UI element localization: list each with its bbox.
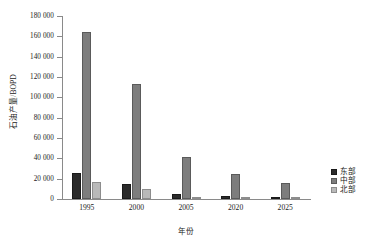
bar-中部-1995[interactable] bbox=[82, 32, 91, 199]
bar-东部-2005[interactable] bbox=[172, 194, 181, 199]
y-axis-tick-label: 0 bbox=[0, 195, 54, 203]
bar-东部-2000[interactable] bbox=[122, 184, 131, 199]
x-axis-tick-label: 2020 bbox=[216, 203, 256, 212]
bar-中部-2025[interactable] bbox=[281, 183, 290, 199]
x-axis-title: 年份 bbox=[0, 225, 372, 236]
bar-group bbox=[72, 16, 101, 199]
bar-东部-2020[interactable] bbox=[221, 196, 230, 199]
chart-legend: 东部中部北部 bbox=[331, 168, 356, 194]
bar-北部-2020[interactable] bbox=[241, 197, 250, 199]
bar-北部-1995[interactable] bbox=[92, 182, 101, 199]
x-axis-tick-label: 1995 bbox=[67, 203, 107, 212]
bar-chart: 020 00040 00060 00080 000100 000120 0001… bbox=[0, 0, 372, 248]
x-axis-tick-label: 2025 bbox=[265, 203, 305, 212]
x-axis-line bbox=[62, 199, 311, 200]
bar-group bbox=[122, 16, 151, 199]
bar-group bbox=[221, 16, 250, 199]
bar-东部-2025[interactable] bbox=[271, 197, 280, 199]
bar-中部-2005[interactable] bbox=[182, 157, 191, 199]
bar-东部-1995[interactable] bbox=[72, 173, 81, 199]
bar-北部-2025[interactable] bbox=[291, 197, 300, 199]
legend-swatch-icon bbox=[331, 178, 337, 184]
bar-中部-2000[interactable] bbox=[132, 84, 141, 199]
y-axis-tick-label: 180 000 bbox=[0, 12, 54, 20]
legend-item-label: 北部 bbox=[340, 186, 356, 194]
legend-item-北部[interactable]: 北部 bbox=[331, 186, 356, 194]
bar-group bbox=[271, 16, 300, 199]
bar-中部-2020[interactable] bbox=[231, 174, 240, 199]
y-axis-tick bbox=[57, 199, 62, 200]
legend-swatch-icon bbox=[331, 187, 337, 193]
legend-swatch-icon bbox=[331, 169, 337, 175]
plot-area bbox=[62, 16, 310, 199]
y-axis-tick-label: 160 000 bbox=[0, 32, 54, 40]
y-axis-tick-label: 20 000 bbox=[0, 175, 54, 183]
legend-item-东部[interactable]: 东部 bbox=[331, 168, 356, 176]
bar-北部-2000[interactable] bbox=[142, 189, 151, 199]
x-axis-tick-label: 2005 bbox=[166, 203, 206, 212]
legend-item-中部[interactable]: 中部 bbox=[331, 177, 356, 185]
bar-group bbox=[172, 16, 201, 199]
x-axis-tick-label: 2000 bbox=[116, 203, 156, 212]
legend-item-label: 东部 bbox=[340, 168, 356, 176]
y-axis-title: 石油产量/BOPD bbox=[7, 42, 18, 162]
legend-item-label: 中部 bbox=[340, 177, 356, 185]
bar-北部-2005[interactable] bbox=[192, 197, 201, 199]
